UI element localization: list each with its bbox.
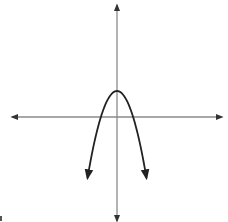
graph-canvas — [0, 0, 228, 222]
corner-mark — [0, 216, 2, 221]
parabola-graph — [0, 0, 228, 222]
